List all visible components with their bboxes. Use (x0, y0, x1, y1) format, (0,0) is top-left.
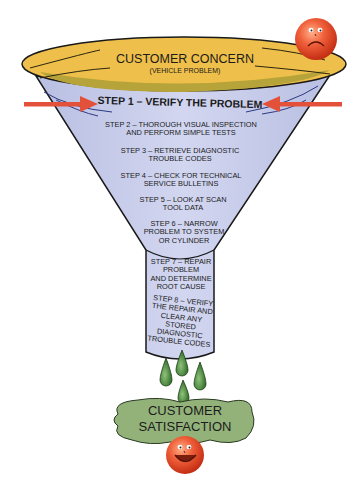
happy-face-icon (166, 436, 204, 474)
step-6-line-3: OR CYLINDER (136, 237, 232, 245)
step-7-label: STEP 7 – REPAIR PROBLEM AND DETERMINE RO… (146, 258, 216, 291)
step-3-line-2: TROUBLE CODES (110, 155, 250, 163)
customer-satisfaction-label: CUSTOMER SATISFACTION (130, 403, 240, 434)
customer-concern-subtitle: (VEHICLE PROBLEM) (110, 67, 260, 75)
satisfaction-line-2: SATISFACTION (130, 419, 240, 435)
sad-face-icon (295, 18, 337, 60)
satisfaction-line-1: CUSTOMER (130, 403, 240, 419)
step-3-label: STEP 3 – RETRIEVE DIAGNOSTIC TROUBLE COD… (110, 147, 250, 164)
step-7-line-4: ROOT CAUSE (146, 283, 216, 291)
step-5-label: STEP 5 – LOOK AT SCAN TOOL DATA (128, 196, 238, 213)
customer-concern-title: CUSTOMER CONCERN (100, 52, 270, 66)
step-2-label: STEP 2 – THOROUGH VISUAL INSPECTION AND … (96, 121, 266, 138)
step-4-line-2: SERVICE BULLETINS (116, 180, 246, 188)
step-8-label: STEP 8 – VERIFY THE REPAIR AND CLEAR ANY… (142, 293, 221, 350)
step-6-label: STEP 6 – NARROW PROBLEM TO SYSTEM OR CYL… (136, 220, 232, 245)
step-5-line-2: TOOL DATA (128, 204, 238, 212)
step-4-label: STEP 4 – CHECK FOR TECHNICAL SERVICE BUL… (116, 172, 246, 189)
step-2-line-2: AND PERFORM SIMPLE TESTS (96, 129, 266, 137)
